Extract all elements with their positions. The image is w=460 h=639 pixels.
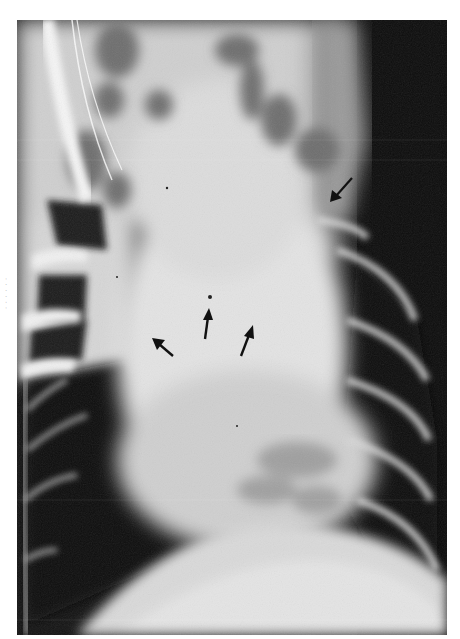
chest-radiograph [17,20,447,635]
arrow-left-icon [147,328,187,368]
arrow-right-icon [231,322,261,362]
arrow-upper-right-icon [322,170,362,210]
page-margin-marker: · · · · · · [1,278,11,348]
arrow-center-icon [192,305,222,345]
